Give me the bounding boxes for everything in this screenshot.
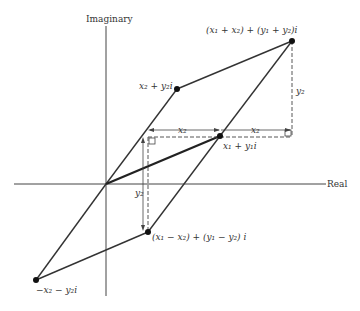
label-y2-right: y₂ xyxy=(295,86,305,96)
imaginary-axis-label: Imaginary xyxy=(86,14,134,24)
label-sum: (x₁ + x₂) + (y₁ + y₂)i xyxy=(206,25,298,35)
label-x2-right: x₂ xyxy=(251,125,260,135)
label-x2-left: x₂ xyxy=(178,125,187,135)
edge-z2-sum xyxy=(177,41,292,89)
point-z2 xyxy=(174,86,180,92)
label-z2: x₂ + y₂i xyxy=(139,81,173,91)
label-y2-lower: y₂ xyxy=(134,188,144,198)
arrow-head-down xyxy=(141,225,145,231)
right-angle-left xyxy=(149,138,155,144)
point-difference xyxy=(145,229,151,235)
complex-plane-diagram: Imaginary Real (x₁ + x₂) + (y₁ + y₂)i x₂… xyxy=(0,0,360,311)
arrow-head-left xyxy=(148,128,154,132)
point-sum xyxy=(289,38,295,44)
real-axis-label: Real xyxy=(327,179,347,189)
label-difference: (x₁ − x₂) + (y₁ − y₂) i xyxy=(152,232,246,242)
label-z1: x₁ + y₁i xyxy=(223,141,257,151)
arrow-head-right xyxy=(285,128,291,132)
point-neg-z2 xyxy=(33,277,39,283)
point-z1 xyxy=(217,133,223,139)
arrow-head-mid xyxy=(214,128,220,132)
label-neg-z2: −x₂ − y₂i xyxy=(36,285,77,295)
edge-z1-sum xyxy=(220,41,292,136)
arrow-head-up xyxy=(141,137,145,143)
